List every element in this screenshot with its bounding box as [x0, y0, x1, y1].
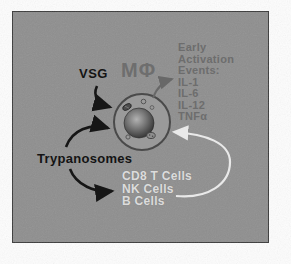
vsg-label: VSG	[79, 66, 108, 81]
granule-dot	[152, 135, 154, 137]
b-cells-label: B Cells	[122, 195, 192, 208]
early-activation-line: Early	[178, 42, 234, 54]
responder-cells-list: CD8 T Cells NK Cells B Cells	[122, 170, 192, 208]
macrophage-label: MΦ	[121, 59, 156, 82]
figure-root: MΦ VSG Trypanosomes Early Activation Eve…	[0, 0, 291, 264]
cytokine-tnfa: TNFα	[178, 111, 234, 123]
trypanosomes-label: Trypanosomes	[37, 151, 132, 166]
early-activation-line: Events:	[178, 65, 234, 77]
diagram-drawing-layer	[0, 0, 291, 264]
cd8-t-cells-label: CD8 T Cells	[122, 170, 192, 183]
early-activation-events-list: Early Activation Events: IL-1 IL-6 IL-12…	[178, 42, 234, 123]
granule-dot	[149, 134, 151, 136]
cytokine-il6: IL-6	[178, 88, 234, 100]
granule-icon	[147, 133, 155, 139]
